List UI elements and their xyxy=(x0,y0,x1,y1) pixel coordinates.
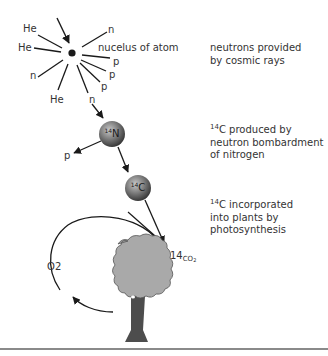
particle-label: p xyxy=(101,81,107,93)
carbon-symbol: C xyxy=(138,182,145,193)
caption-line: photosynthesis xyxy=(210,224,328,237)
o2-subscript: 2 xyxy=(55,261,61,272)
bottom-divider xyxy=(0,348,328,350)
oxygen-cycle-return-arrow xyxy=(73,297,113,312)
caption-line: neutrons provided xyxy=(210,42,328,55)
caption-cosmic-rays: neutrons provided by cosmic rays xyxy=(210,42,328,67)
caption-text: C produced by xyxy=(219,124,292,135)
caption-text: C incorporated xyxy=(219,199,293,210)
carbon-label: 14C xyxy=(125,175,151,201)
caption-photosynthesis: 14C incorporated into plants by photosyn… xyxy=(210,199,328,237)
proton-label: p xyxy=(64,150,70,162)
o2-symbol: O xyxy=(47,261,55,272)
caption-line: 14C produced by xyxy=(210,124,328,137)
particle-label: He xyxy=(50,94,64,106)
caption-c14-production: 14C produced by neutron bombardment of n… xyxy=(210,124,328,162)
cosmic-ray-arrow xyxy=(57,18,69,43)
caption-line: into plants by xyxy=(210,212,328,225)
tree-crown xyxy=(113,234,173,298)
o2-label: O2 xyxy=(47,261,61,272)
caption-mass: 14 xyxy=(210,123,219,131)
n-to-c-arrow xyxy=(118,147,128,172)
particle-label: He xyxy=(18,42,32,54)
nitrogen-label: 14N xyxy=(99,121,125,147)
particle-label: n xyxy=(30,70,36,82)
particle-label: n xyxy=(108,24,114,36)
nitrogen-mass: 14 xyxy=(104,127,112,134)
proton-arrow xyxy=(74,141,101,153)
nitrogen-symbol: N xyxy=(112,128,119,139)
caption-line: 14C incorporated xyxy=(210,199,328,212)
particle-label: p xyxy=(113,56,119,68)
particle-label: n xyxy=(89,94,95,106)
caption-line: by cosmic rays xyxy=(210,55,328,68)
co2-subscript: 2 xyxy=(193,257,196,263)
particle-label: He xyxy=(23,23,37,35)
caption-line: neutron bombardment xyxy=(210,137,328,150)
caption-mass: 14 xyxy=(210,198,219,206)
co2-label: 14CO2 xyxy=(170,250,196,263)
nucleus-label: nucelus of atom xyxy=(98,42,179,54)
co2-mass: 14 xyxy=(170,250,183,261)
nucleus-dot xyxy=(68,49,75,56)
co2-formula: CO xyxy=(183,255,193,263)
caption-line: of nitrogen xyxy=(210,149,328,162)
tree-trunk xyxy=(125,296,148,342)
particle-label: p xyxy=(109,69,115,81)
neutron-arrow xyxy=(92,104,103,118)
